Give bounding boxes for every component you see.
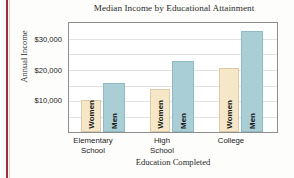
bar-label-wrap: Men [173, 83, 193, 129]
chart-figure: Median Income by Educational Attainment … [0, 0, 294, 178]
bar-highschool-men: Men [172, 61, 194, 132]
x-axis-category-line: School [127, 146, 197, 156]
x-axis-category-college: College [196, 136, 266, 146]
page-margin-rule-secondary [9, 0, 10, 178]
chart-title: Median Income by Educational Attainment [56, 3, 292, 13]
x-axis-category-line: School [58, 146, 128, 156]
bar-label: Men [110, 113, 119, 129]
page-margin-rule [6, 0, 8, 178]
x-axis-title: Education Completed [68, 157, 278, 167]
bar-elementary-men: Men [103, 83, 125, 132]
bar-label-wrap: Men [242, 83, 262, 129]
bar-label-wrap: Women [82, 83, 100, 129]
y-axis-title: Annual Income [20, 17, 29, 97]
y-axis-tick-label: $30,000 [2, 35, 62, 44]
y-axis-tick-label: $20,000 [2, 66, 62, 75]
plot-area: Women Men Women Men Women Men [68, 22, 278, 133]
x-axis-category-highschool: High School [127, 136, 197, 155]
bar-highschool-women: Women [150, 89, 170, 132]
bar-college-women: Women [219, 68, 239, 133]
bar-label: Men [248, 113, 257, 129]
x-axis-category-elementary: Elementary School [58, 136, 128, 155]
bar-college-men: Men [241, 31, 263, 132]
bar-label: Women [225, 100, 234, 129]
y-axis-tick-label: $10,000 [2, 96, 62, 105]
bar-label-wrap: Men [104, 83, 124, 129]
bar-label: Women [156, 100, 165, 129]
bar-elementary-women: Women [81, 100, 101, 132]
bar-label-wrap: Women [151, 83, 169, 129]
x-axis-category-line: College [196, 136, 266, 146]
x-axis-category-line: High [127, 136, 197, 146]
bar-label: Men [179, 113, 188, 129]
x-axis-category-line: Elementary [58, 136, 128, 146]
bar-label-wrap: Women [220, 83, 238, 129]
bar-label: Women [87, 100, 96, 129]
